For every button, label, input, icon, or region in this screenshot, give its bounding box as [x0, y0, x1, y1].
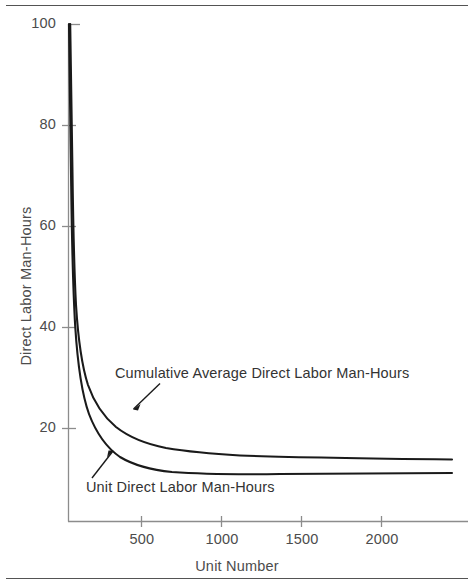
x-axis-title: Unit Number: [0, 558, 474, 574]
y-axis-title: Direct Labor Man-Hours: [18, 186, 34, 386]
x-tick-label-1500: 1500: [272, 531, 332, 547]
learning-curve-figure: 100 80 60 40 20 500 1000 1500 2000 Direc…: [0, 0, 474, 587]
unit-curve-label: Unit Direct Labor Man-Hours: [86, 479, 275, 495]
y-tick-label-20: 20: [8, 419, 56, 435]
x-tick-label-2000: 2000: [352, 531, 412, 547]
x-tick-label-1000: 1000: [192, 531, 252, 547]
chart-plot-area: [0, 0, 474, 587]
y-tick-label-80: 80: [8, 116, 56, 132]
unit-leader: [92, 451, 114, 479]
y-tick-label-100: 100: [8, 15, 56, 31]
unit-curve: [69, 24, 452, 474]
x-tick-label-500: 500: [112, 531, 172, 547]
cumulative-average-leader: [133, 384, 160, 411]
cumulative-average-curve-label: Cumulative Average Direct Labor Man-Hour…: [115, 365, 409, 381]
cumulative-average-curve: [70, 24, 452, 460]
